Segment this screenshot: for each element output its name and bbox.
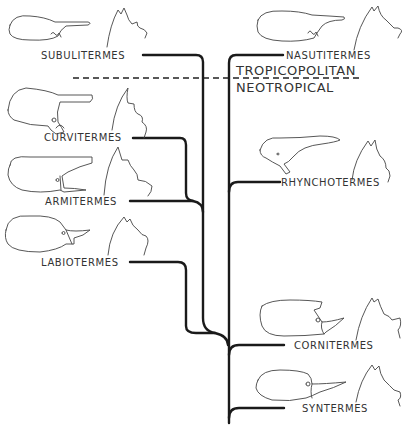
mandible-outline-cornitermes — [356, 298, 401, 340]
mandible-outline-armitermes — [104, 147, 152, 196]
head-outline-cornitermes — [260, 300, 344, 336]
mandible-outline-labiotermes — [108, 217, 148, 255]
branch-syntermes — [229, 408, 284, 418]
branch-cornitermes — [229, 345, 284, 355]
taxon-label-syntermes: SYNTERMES — [302, 403, 368, 414]
mandible-outline-rhynchotermes — [352, 140, 390, 182]
head-outline-subulitermes — [9, 16, 90, 40]
branch-nasutitermes — [229, 55, 283, 423]
head-outline-labiotermes — [5, 216, 90, 252]
mandible-outline-syntermes — [356, 365, 401, 406]
head-outline-armitermes — [8, 157, 92, 192]
taxon-label-rhynchotermes: RHYNCHOTERMES — [281, 177, 380, 188]
head-outline-syntermes — [256, 370, 346, 401]
head-outline-rhynchotermes — [260, 136, 340, 174]
mandible-outline-nasutitermes — [354, 6, 402, 50]
taxon-label-cornitermes: CORNITERMES — [294, 340, 374, 351]
tree-branches — [130, 55, 284, 423]
head-outline-curvitermes — [8, 88, 93, 134]
branch-rhynchotermes — [229, 182, 280, 192]
tree-diagram: TROPICOPOLITAN NEOTROPICAL SUBULITERMES … — [0, 0, 408, 427]
head-outline-nasutitermes — [257, 11, 345, 41]
taxon-label-nasutitermes: NASUTITERMES — [286, 50, 371, 61]
taxon-label-labiotermes: LABIOTERMES — [41, 257, 119, 268]
phylogeny-figure: TROPICOPOLITAN NEOTROPICAL SUBULITERMES … — [0, 0, 408, 427]
taxon-label-armitermes: ARMITERMES — [45, 196, 117, 207]
taxon-label-subulitermes: SUBULITERMES — [41, 50, 125, 61]
mandible-outline-curvitermes — [112, 88, 147, 138]
region-label-tropicopolitan: TROPICOPOLITAN — [235, 63, 356, 78]
region-label-neotropical: NEOTROPICAL — [236, 80, 334, 95]
mandible-outline-subulitermes — [107, 8, 147, 47]
